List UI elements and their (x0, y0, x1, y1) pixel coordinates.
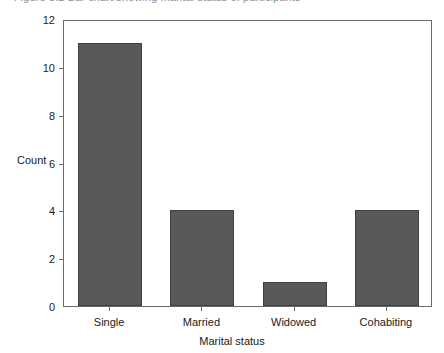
x-tick-label-widowed: Widowed (271, 316, 316, 328)
x-tick-label-single: Single (94, 316, 125, 328)
y-tick-label: 4 (3, 206, 55, 217)
bars-layer (64, 21, 431, 306)
y-tick-label: 8 (3, 111, 55, 122)
x-axis-title-text: Marital status (199, 335, 264, 347)
y-tick-label: 10 (3, 63, 55, 74)
plot-area (63, 20, 432, 307)
x-tick-mark (294, 307, 295, 311)
bar-widowed (263, 282, 327, 306)
x-tick-mark (386, 307, 387, 311)
y-tick-label: 6 (3, 159, 55, 170)
y-tick-label: 12 (3, 15, 55, 26)
bar-cohabiting (355, 210, 419, 306)
bar-single (78, 43, 142, 306)
bar-married (170, 210, 234, 306)
bar-chart-figure: Figure 3.2 Bar chart showing marital sta… (0, 0, 444, 353)
x-tick-mark (201, 307, 202, 311)
y-tick-label: 2 (3, 254, 55, 265)
x-tick-label-married: Married (183, 316, 220, 328)
x-tick-label-cohabiting: Cohabiting (360, 316, 413, 328)
x-tick-mark (109, 307, 110, 311)
x-axis-title: Marital status (0, 335, 444, 347)
y-tick-label: 0 (3, 302, 55, 313)
